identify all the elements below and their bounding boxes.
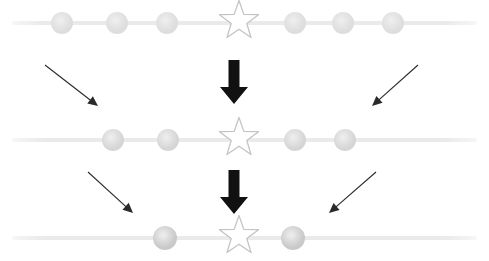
star-node[interactable]: [217, 214, 261, 258]
circle-node[interactable]: [153, 226, 177, 250]
thick-arrow-upper: [220, 60, 248, 104]
star-icon: [220, 216, 259, 253]
thin-arrow-upper-right: [372, 65, 418, 106]
thin-arrow-lower-right: [329, 172, 376, 213]
circle-node[interactable]: [281, 226, 305, 250]
star-node[interactable]: [217, 0, 261, 43]
circle-node[interactable]: [102, 129, 124, 151]
circle-node[interactable]: [334, 129, 356, 151]
circle-node[interactable]: [382, 12, 404, 34]
thin-arrow-upper-left: [45, 65, 98, 106]
thin-arrow-lower-left: [88, 172, 133, 213]
star-node[interactable]: [217, 116, 261, 160]
circle-node[interactable]: [284, 129, 306, 151]
diagram-canvas: [0, 0, 489, 261]
circle-node[interactable]: [106, 12, 128, 34]
star-icon: [220, 118, 259, 155]
star-icon: [220, 1, 259, 38]
circle-node[interactable]: [51, 12, 73, 34]
circle-node[interactable]: [156, 12, 178, 34]
circle-node[interactable]: [332, 12, 354, 34]
circle-node[interactable]: [284, 12, 306, 34]
thick-arrow-lower: [220, 170, 248, 214]
circle-node[interactable]: [157, 129, 179, 151]
